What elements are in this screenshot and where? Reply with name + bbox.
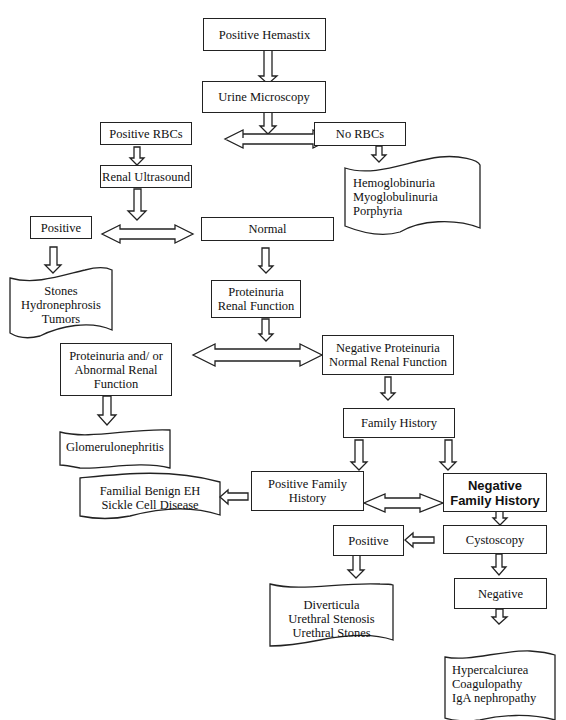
arrow-prot-down (259, 319, 273, 341)
doc-cysto-positive-causes: Diverticula Urethral Stenosis Urethral S… (270, 598, 393, 640)
arrow-positive-to-doc (45, 247, 61, 273)
arrow-cysto-to-positive (405, 533, 434, 547)
node-abnormal-renal-function: Proteinuria and/ or Abnormal Renal Funct… (60, 343, 172, 396)
doc-no-rbc-causes: Hemoglobinuria Myoglobulinuria Porphyria (353, 176, 478, 218)
node-no-rbcs: No RBCs (314, 122, 406, 146)
double-arrow-proteinuria (193, 344, 322, 366)
node-cystoscopy: Cystoscopy (443, 525, 547, 554)
node-positive-rbcs: Positive RBCs (100, 122, 192, 145)
doc-us-positive-causes: Stones Hydronephrosis Tumors (10, 284, 112, 326)
flowchart-canvas: Positive Hemastix Urine Microscopy Posit… (0, 0, 566, 720)
node-negative-proteinuria: Negative Proteinuria Normal Renal Functi… (322, 335, 454, 375)
doc-cysto-negative-causes: Hypercalciurea Coagulopathy IgA nephropa… (452, 663, 555, 705)
doc-glomerulonephritis: Glomerulonephritis (60, 440, 170, 454)
node-proteinuria-renal-function: Proteinuria Renal Function (211, 280, 301, 318)
arrow-microscopy-down (260, 112, 276, 134)
arrow-hemastix-to-microscopy (259, 50, 277, 84)
node-negative-family-history: Negative Family History (443, 473, 547, 512)
node-cysto-negative: Negative (454, 578, 547, 609)
node-us-normal: Normal (201, 217, 334, 241)
double-arrow-family (364, 494, 443, 512)
doc-family-causes: Familial Benign EH Sickle Cell Disease (80, 484, 220, 512)
node-cysto-positive: Positive (333, 525, 404, 556)
node-renal-ultrasound: Renal Ultrasound (100, 165, 192, 188)
node-urine-microscopy: Urine Microscopy (202, 81, 326, 113)
arrow-family-to-posfam (351, 440, 367, 470)
arrow-family-to-negfam (440, 440, 456, 470)
double-arrow-ultrasound (102, 225, 193, 243)
arrow-normal-down (259, 248, 273, 273)
arrow-abnormal-to-glom (98, 396, 116, 425)
arrow-cyspos-to-doc (348, 555, 364, 578)
arrow-us-down (128, 189, 146, 220)
node-positive-hemastix: Positive Hemastix (203, 18, 326, 51)
arrow-norbc-to-doc (372, 146, 386, 162)
node-family-history: Family History (343, 408, 455, 438)
arrow-cysto-to-negative (492, 554, 506, 575)
arrow-posfam-to-doc (220, 490, 248, 504)
node-positive-family-history: Positive Family History (251, 471, 364, 511)
arrow-negprot-to-family (381, 377, 395, 400)
arrow-negative-to-doc (492, 609, 507, 624)
arrow-posrbc-to-us (130, 147, 144, 165)
node-us-positive: Positive (30, 216, 92, 239)
